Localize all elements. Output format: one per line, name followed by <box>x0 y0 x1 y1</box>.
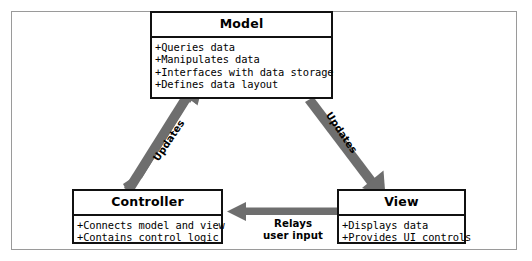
uml-class-controller-item-0: +Connects model and view <box>77 219 221 232</box>
arrow-label-view-to-controller-line2: user input <box>253 230 333 242</box>
uml-class-model[interactable]: Model +Queries data +Manipulates data +I… <box>150 11 333 99</box>
arrow-label-view-to-controller: Relays user input <box>253 218 333 242</box>
arrow-label-view-to-controller-line1: Relays <box>253 218 333 230</box>
uml-class-view-item-1: +Provides UI controls <box>342 231 464 244</box>
uml-class-controller-body: +Connects model and view +Contains contr… <box>74 216 221 247</box>
uml-class-model-item-0: +Queries data <box>155 41 331 54</box>
uml-class-model-title: Model <box>152 13 331 38</box>
uml-class-controller-title: Controller <box>74 191 221 216</box>
uml-class-view-item-0: +Displays data <box>342 219 464 232</box>
diagram-canvas: Model +Queries data +Manipulates data +I… <box>0 0 532 261</box>
uml-class-model-body: +Queries data +Manipulates data +Interfa… <box>152 38 331 94</box>
uml-class-controller[interactable]: Controller +Connects model and view +Con… <box>72 189 223 244</box>
uml-class-view[interactable]: View +Displays data +Provides UI control… <box>337 189 466 244</box>
uml-class-controller-item-1: +Contains control logic <box>77 231 221 244</box>
uml-class-view-title: View <box>339 191 464 216</box>
uml-class-model-item-1: +Manipulates data <box>155 53 331 66</box>
uml-class-model-item-2: +Interfaces with data storage <box>155 66 331 79</box>
uml-class-view-body: +Displays data +Provides UI controls <box>339 216 464 247</box>
uml-class-model-item-3: +Defines data layout <box>155 78 331 91</box>
